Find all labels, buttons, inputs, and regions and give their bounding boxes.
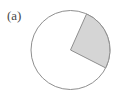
figure-container: (a): [0, 0, 125, 91]
circle-sector-diagram: [0, 0, 125, 91]
